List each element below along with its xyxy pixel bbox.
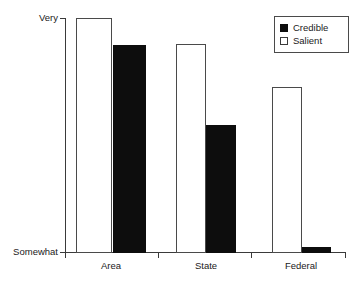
x-axis-category-label-state: State bbox=[171, 260, 241, 271]
x-axis-tick-federal bbox=[345, 253, 346, 258]
legend-label-credible: Credible bbox=[293, 22, 328, 33]
bar-chart: Very Somewhat Area State Federal Credibl… bbox=[0, 0, 362, 285]
y-axis-line bbox=[65, 18, 66, 253]
y-axis-tick-very bbox=[60, 18, 65, 19]
bar-federal-credible bbox=[302, 247, 331, 253]
y-axis-label-top: Very bbox=[39, 13, 58, 23]
bar-federal-salient bbox=[272, 87, 302, 253]
x-axis-category-label-area: Area bbox=[76, 260, 146, 271]
legend-swatch-salient-icon bbox=[280, 37, 288, 45]
bar-area-credible bbox=[113, 45, 146, 253]
bar-state-salient bbox=[176, 44, 206, 253]
x-axis-tick-state bbox=[251, 253, 252, 258]
bar-area-salient bbox=[76, 18, 112, 253]
x-axis-tick-area bbox=[158, 253, 159, 258]
y-axis-label-bottom: Somewhat bbox=[13, 247, 58, 257]
chart-legend: Credible Salient bbox=[274, 16, 349, 53]
x-axis-category-label-federal: Federal bbox=[266, 260, 336, 271]
x-axis-tick-start bbox=[65, 253, 66, 258]
legend-label-salient: Salient bbox=[293, 35, 322, 46]
legend-item-credible: Credible bbox=[280, 21, 343, 34]
bar-state-credible bbox=[206, 125, 236, 253]
legend-swatch-credible-icon bbox=[280, 24, 288, 32]
legend-item-salient: Salient bbox=[280, 34, 343, 47]
